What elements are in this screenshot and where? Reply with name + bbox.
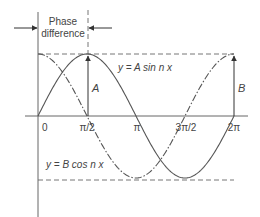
phase-label-line2: difference (41, 28, 85, 39)
phase-label-line1: Phase (49, 16, 78, 27)
amplitude-A-label: A (91, 82, 99, 94)
cosine-function-label: y = B cos n x (45, 159, 105, 170)
x-tick-0: 0 (42, 122, 48, 133)
amplitude-B-label: B (238, 82, 245, 94)
x-tick-2pi: 2π (228, 122, 241, 133)
sine-function-label: y = A sin n x (117, 62, 173, 73)
phase-difference-diagram: Phase difference A B y = A sin n x y = B… (0, 0, 260, 217)
x-tick-3pi-over-2: 3π/2 (176, 122, 197, 133)
x-tick-pi: π (134, 122, 141, 133)
x-tick-pi-over-2: π/2 (79, 122, 95, 133)
